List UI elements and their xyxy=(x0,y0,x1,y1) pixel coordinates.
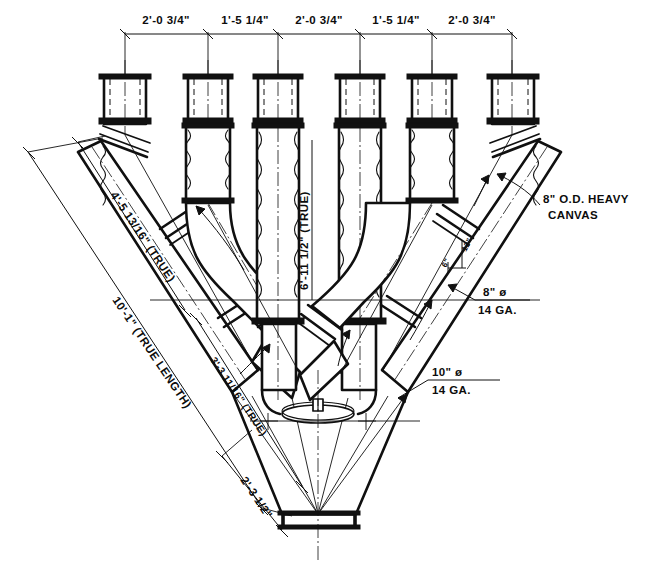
ten-inch-line2: 14 GA. xyxy=(432,384,471,396)
canvas-callout-line2: CANVAS xyxy=(548,209,598,221)
top-dim-label-5: 2'-0 3/4" xyxy=(448,14,496,26)
top-dim-label-2: 1'-5 1/4" xyxy=(221,14,269,26)
branch-duct-6 xyxy=(381,126,561,392)
top-dimension-chain xyxy=(120,29,517,78)
duct-top-spool-6 xyxy=(487,60,539,135)
technical-drawing-canvas: 2'-0 3/4" 1'-5 1/4" 2'-0 3/4" 1'-5 1/4" … xyxy=(0,0,652,588)
top-dim-label-4: 1'-5 1/4" xyxy=(372,14,420,26)
top-dim-label-3: 2'-0 3/4" xyxy=(295,14,343,26)
duct-top-spool-1 xyxy=(99,60,151,135)
canvas-callout-line1: 8" O.D. HEAVY xyxy=(543,193,629,205)
eight-inch-line1: 8" ø xyxy=(483,286,507,298)
dim-label-center-vertical: 6'-11 1/2" (TRUE) xyxy=(298,191,310,290)
lower-plenum-cone xyxy=(232,370,408,560)
top-dim-label-1: 2'-0 3/4" xyxy=(142,14,190,26)
eight-inch-line2: 14 GA. xyxy=(478,304,517,316)
ten-inch-line1: 10" ø xyxy=(432,366,462,378)
drawing-sheet: 2'-0 3/4" 1'-5 1/4" 2'-0 3/4" 1'-5 1/4" … xyxy=(0,0,652,588)
canvas-callout-text: 8" O.D. HEAVY CANVAS xyxy=(543,193,629,221)
ten-inch-callout-text: 10" ø 14 GA. xyxy=(432,366,471,396)
eight-inch-callout-text: 8" ø 14 GA. xyxy=(478,286,517,316)
top-dimension-labels: 2'-0 3/4" 1'-5 1/4" 2'-0 3/4" 1'-5 1/4" … xyxy=(142,14,496,26)
